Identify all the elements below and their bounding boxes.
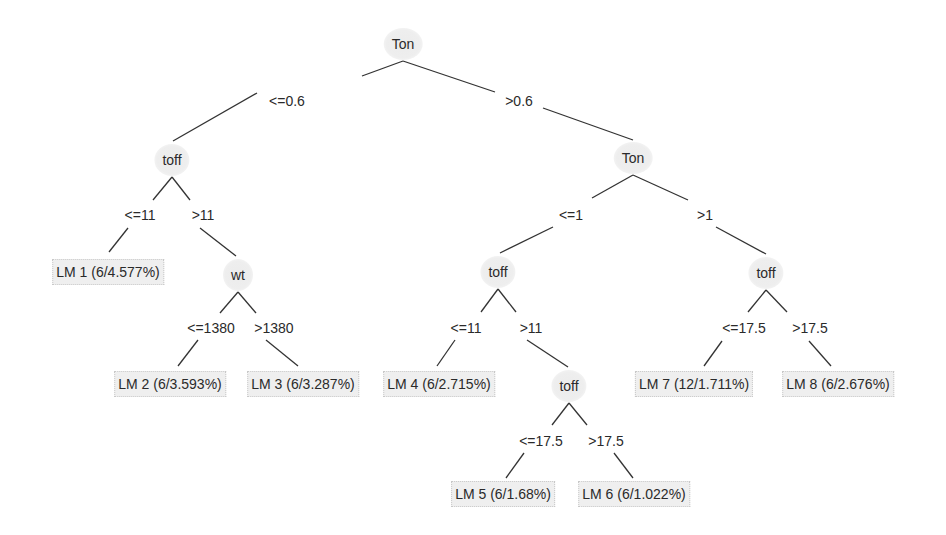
edge-condition-label: <=1380 [185,320,237,336]
tree-edge [437,340,455,366]
tree-edge [362,61,403,76]
tree-edge [552,403,569,425]
split-node-ton: Ton [614,142,653,174]
tree-edge [403,61,495,92]
split-node-wt: wt [223,259,253,291]
leaf-model-lm8: LM 8 (6/2.676%) [782,371,894,397]
tree-edge [500,227,553,253]
tree-edge [481,289,498,312]
edge-condition-label: >1 [695,207,715,223]
edge-condition-label: >11 [518,320,545,336]
tree-edge [506,453,524,478]
tree-edge [543,108,633,140]
edge-condition-label: <=1 [557,207,585,223]
tree-edge [569,403,587,425]
leaf-model-lm2: LM 2 (6/3.593%) [114,371,226,397]
leaf-model-lm7: LM 7 (12/1.711%) [635,371,753,397]
split-node-toff: toff [480,256,515,288]
tree-edge [220,292,238,313]
edge-condition-label: <=0.6 [267,93,307,109]
tree-edge [238,292,256,313]
tree-edge [809,341,831,366]
tree-edge [178,340,198,366]
leaf-model-lm3: LM 3 (6/3.287%) [247,371,359,397]
tree-edge [766,290,787,312]
tree-edge [153,177,172,200]
tree-edge [527,340,568,367]
edge-condition-label: <=11 [449,320,484,336]
tree-edge [704,341,722,366]
tree-edge [498,289,516,312]
edge-condition-label: <=17.5 [517,433,565,449]
tree-edge [266,340,298,366]
edge-condition-label: >17.5 [586,433,625,449]
tree-edge [592,175,633,198]
edge-condition-label: <=11 [123,207,158,223]
split-node-toff: toff [748,257,783,289]
split-node-toff: toff [154,144,189,176]
tree-edge [109,228,128,252]
edge-condition-label: >0.6 [503,93,535,109]
tree-edge [614,453,633,478]
split-node-toff: toff [551,370,586,402]
edge-condition-label: >1380 [252,320,295,336]
tree-edge [748,290,766,312]
split-node-ton: Ton [384,28,423,60]
edge-condition-label: >17.5 [790,320,829,336]
leaf-model-lm1: LM 1 (6/4.577%) [52,259,164,285]
tree-edge [633,175,688,200]
edge-condition-label: >11 [190,207,217,223]
tree-edge [716,227,766,254]
leaf-model-lm6: LM 6 (6/1.022%) [578,481,690,507]
edge-condition-label: <=17.5 [720,320,768,336]
tree-edge [200,228,236,256]
model-tree-diagram: TontoffwtTontofftofftoff<=0.6>0.6<=11>11… [0,0,946,535]
leaf-model-lm5: LM 5 (6/1.68%) [451,481,555,507]
tree-edge [172,177,190,200]
tree-edge [173,93,257,141]
leaf-model-lm4: LM 4 (6/2.715%) [383,371,495,397]
